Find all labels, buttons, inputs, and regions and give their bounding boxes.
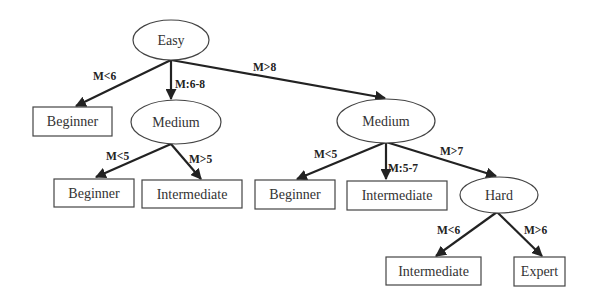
node-medium-right: Medium [337,99,435,143]
node-beginner-2: Beginner [54,179,134,207]
node-medium-left: Medium [131,100,221,144]
node-beginner-3: Beginner [255,180,335,209]
edge-easy-beginner [76,60,171,106]
edge-label-medr-hard: M>7 [440,145,463,157]
edge-label-hard-intermediate: M<6 [437,224,460,236]
node-label: Beginner [68,186,120,201]
node-easy: Easy [133,20,209,60]
node-intermediate-3: Intermediate [386,257,481,285]
node-label: Medium [362,114,410,129]
node-label: Hard [485,188,513,203]
node-label: Expert [521,264,558,279]
node-label: Easy [157,33,184,48]
node-label: Beginner [47,114,99,129]
edge-label-medl-beginner: M<5 [106,150,129,162]
edge-medr-beginner [297,142,386,179]
edge-label-easy-beginner: M<6 [93,70,116,82]
edge-label-hard-expert: M>6 [524,224,547,236]
node-label: Intermediate [157,187,228,202]
node-intermediate-2: Intermediate [347,181,447,210]
edge-label-medl-intermediate: M>5 [189,153,212,165]
edge-label-easy-medium-left: M:6-8 [175,78,205,90]
edge-label-easy-medium-right: M>8 [253,61,276,73]
node-label: Intermediate [398,264,469,279]
node-hard: Hard [460,177,538,213]
edge-label-medr-intermediate: M:5-7 [388,162,418,174]
node-intermediate-1: Intermediate [142,180,242,208]
node-label: Intermediate [362,188,433,203]
edges [76,60,542,256]
node-expert: Expert [514,257,565,286]
node-label: Medium [152,115,200,130]
node-label: Beginner [269,187,321,202]
edge-label-medr-beginner: M<5 [314,148,337,160]
decision-tree-diagram: M<6 M:6-8 M>8 M<5 M>5 M<5 M:5-7 M>7 M<6 … [0,0,606,303]
node-beginner-1: Beginner [33,107,112,136]
